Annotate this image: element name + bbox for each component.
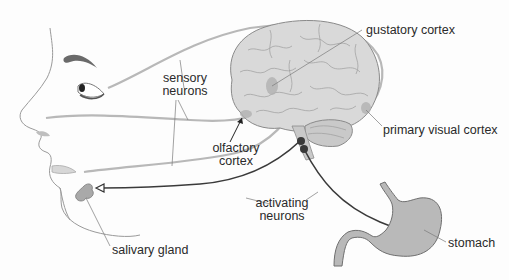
nostril	[36, 131, 50, 136]
cerebellum	[305, 120, 352, 147]
sensory-leader-2	[178, 100, 188, 120]
diagram-canvas: gustatory cortex sensory neurons olfacto…	[0, 0, 509, 280]
eye	[78, 83, 104, 98]
label-gustatory-cortex: gustatory cortex	[366, 24, 455, 37]
label-olfactory-line2: cortex	[208, 155, 264, 168]
visual-cortex-region	[361, 102, 371, 114]
eyebrow	[63, 55, 97, 68]
label-sensory-neurons: sensory neurons	[160, 72, 210, 98]
cerebrum	[231, 20, 380, 131]
visual-leader	[366, 110, 382, 126]
sensory-leader-3	[172, 100, 176, 166]
label-olfactory-cortex: olfactory cortex	[208, 142, 264, 168]
label-salivary-gland: salivary gland	[112, 244, 188, 257]
label-stomach: stomach	[448, 237, 495, 250]
salivary-gland	[76, 184, 94, 201]
label-activating-line2: neurons	[252, 210, 312, 223]
brainstem-nucleus-1	[297, 137, 305, 145]
salivary-terminal-icon	[96, 184, 104, 192]
illustration	[0, 0, 509, 280]
lips	[52, 165, 76, 173]
olfactory-cortex-region	[240, 110, 252, 118]
label-activating-neurons: activating neurons	[252, 197, 312, 223]
label-sensory-line2: neurons	[160, 85, 210, 98]
stomach-organ	[334, 182, 442, 266]
salivary-pathway	[102, 141, 300, 188]
salivary-leader	[86, 198, 110, 246]
label-primary-visual-cortex: primary visual cortex	[383, 124, 498, 137]
brain	[231, 20, 380, 160]
olfactory-pathway	[46, 115, 252, 120]
